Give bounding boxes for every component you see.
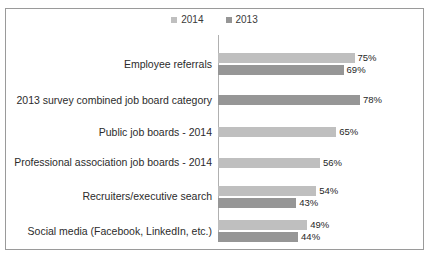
category-label: Social media (Facebook, LinkedIn, etc.) [6,225,218,238]
bar-2014 [218,158,320,168]
bar-group-item: 49% [218,220,329,230]
bar-2013 [218,232,298,242]
bar-2013 [218,95,360,105]
bars-area: 78% [218,81,423,119]
bar-value-label: 56% [323,158,342,168]
bar-value-label: 49% [310,220,329,230]
chart-row: Social media (Facebook, LinkedIn, etc.) … [6,213,423,249]
chart-row: Employee referrals 75%69% [6,47,423,81]
bar-value-label: 54% [319,186,338,196]
bar-2014 [218,186,316,196]
bars-area: 54%43% [218,180,423,213]
category-label: Employee referrals [6,58,218,71]
plot-area: Employee referrals 75%69% 2013 survey co… [6,35,423,249]
chart-frame: 2014 2013 Employee referrals 75%69% 2013… [5,8,424,250]
category-label: Public job boards - 2014 [6,126,218,139]
chart-row: Professional association job boards - 20… [6,145,423,180]
bars-area: 75%69% [218,47,423,81]
bars-area: 56% [218,145,423,180]
legend-label-2013: 2013 [236,15,258,25]
bar-2014 [218,220,307,230]
bar-group-item: 65% [218,127,358,137]
category-label: 2013 survey combined job board category [6,94,218,107]
bar-value-label: 78% [363,95,382,105]
bars-area: 65% [218,119,423,145]
chart-legend: 2014 2013 [6,15,423,25]
chart-row: Recruiters/executive search 54%43% [6,180,423,213]
legend-item-2014: 2014 [171,15,203,25]
bar-group-item: 43% [218,198,318,208]
bar-value-label: 75% [358,53,377,63]
legend-swatch-2013 [226,17,232,23]
chart-row: Public job boards - 2014 65% [6,119,423,145]
bar-2013 [218,65,344,75]
bar-2014 [218,53,355,63]
category-label: Professional association job boards - 20… [6,156,218,169]
bar-group-item: 54% [218,186,338,196]
bar-value-label: 69% [347,65,366,75]
bar-value-label: 44% [301,232,320,242]
category-label: Recruiters/executive search [6,190,218,203]
bar-2013 [218,198,296,208]
bar-group-item: 44% [218,232,320,242]
legend-label-2014: 2014 [181,15,203,25]
bar-group-item: 75% [218,53,377,63]
bar-group-item: 78% [218,95,382,105]
legend-item-2013: 2013 [226,15,258,25]
bar-group-item: 69% [218,65,366,75]
chart-row: 2013 survey combined job board category … [6,81,423,119]
legend-swatch-2014 [171,17,177,23]
bars-area: 49%44% [218,213,423,249]
bar-value-label: 65% [339,127,358,137]
bar-value-label: 43% [299,198,318,208]
bar-2014 [218,127,336,137]
bar-group-item: 56% [218,158,342,168]
